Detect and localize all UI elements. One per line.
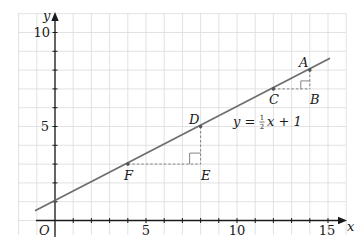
x-axis-arrow-icon — [338, 217, 347, 224]
point-a — [308, 68, 312, 72]
point-f — [126, 162, 130, 166]
x-tick-label-15: 15 — [319, 223, 336, 238]
point-label-d: D — [188, 112, 200, 127]
coordinate-graph: x y O 5 10 15 5 10 A B C D E F y = 1 2 x… — [0, 0, 361, 249]
y-tick-label-10: 10 — [33, 25, 50, 40]
right-angle-marker-b — [301, 81, 310, 89]
fraction-denominator: 2 — [260, 123, 264, 131]
x-axis — [36, 217, 347, 224]
y-axis — [51, 12, 58, 237]
point-label-a: A — [298, 55, 308, 70]
point-label-b: B — [309, 92, 320, 107]
equation-suffix: x + 1 — [267, 114, 302, 129]
y-tick-label-5: 5 — [41, 119, 49, 134]
x-tick-label-5: 5 — [142, 223, 150, 238]
point-label-c: C — [269, 92, 279, 107]
x-axis-label: x — [347, 219, 355, 234]
point-y-intercept — [54, 200, 57, 203]
point-c — [272, 87, 276, 91]
fraction-numerator: 1 — [260, 114, 264, 122]
right-angle-marker-e — [190, 153, 201, 164]
svg-text:y =: y = — [232, 114, 255, 129]
x-tick-label-10: 10 — [229, 223, 246, 238]
y-axis-label: y — [42, 8, 51, 23]
equation-label: y = 1 2 x + 1 — [232, 114, 302, 131]
point-label-f: F — [123, 168, 134, 183]
equation-prefix: y = — [232, 114, 255, 129]
point-label-e: E — [200, 168, 211, 183]
origin-label: O — [39, 223, 50, 238]
